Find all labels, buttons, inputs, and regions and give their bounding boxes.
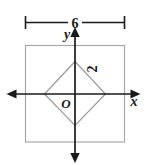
x-axis-label: x — [130, 94, 138, 109]
origin-label: O — [61, 96, 71, 111]
x-axis-arrow-left — [7, 90, 17, 99]
diamond-side-label-2: 2 — [85, 66, 100, 73]
y-axis-label: y — [62, 27, 71, 42]
y-axis-arrow-down — [70, 153, 79, 163]
geometry-figure: 6 y x O 2 — [0, 0, 147, 165]
diagram-canvas: 6 y x O 2 — [0, 0, 147, 165]
